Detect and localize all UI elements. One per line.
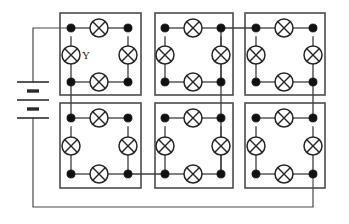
lamp-label-y: Y bbox=[82, 49, 90, 61]
lamp-icon[interactable] bbox=[304, 46, 322, 64]
junction-dot bbox=[161, 78, 169, 86]
lamp-icon[interactable] bbox=[184, 109, 202, 127]
lamp-icon[interactable] bbox=[275, 109, 293, 127]
junction-dot bbox=[252, 114, 260, 122]
lamp-icon[interactable] bbox=[156, 137, 174, 155]
lamp-icon[interactable] bbox=[90, 109, 108, 127]
lamp-icon[interactable] bbox=[184, 73, 202, 91]
lamp-icon[interactable] bbox=[275, 165, 293, 183]
junction-dot bbox=[67, 114, 75, 122]
box-group bbox=[60, 13, 325, 188]
junction-dot bbox=[309, 114, 317, 122]
wire-battery-negative-return bbox=[33, 118, 313, 207]
lamp-icon[interactable] bbox=[275, 19, 293, 37]
junction-dot bbox=[124, 170, 132, 178]
junction-dot bbox=[309, 24, 317, 32]
junction-dot bbox=[67, 24, 75, 32]
lamp-icon[interactable] bbox=[90, 19, 108, 37]
lamp-cell-bottom-right bbox=[247, 109, 322, 183]
lamp-icon[interactable] bbox=[275, 73, 293, 91]
lamp-icon[interactable] bbox=[184, 165, 202, 183]
lamp-icon[interactable] bbox=[119, 137, 137, 155]
lamp-cell-top-left: Y bbox=[62, 19, 137, 91]
lamp-icon[interactable] bbox=[247, 137, 265, 155]
lamp-icon[interactable] bbox=[212, 46, 230, 64]
junction-dot bbox=[217, 170, 225, 178]
junction-dot bbox=[217, 24, 225, 32]
junction-dot bbox=[161, 114, 169, 122]
lamp-cell-top-right bbox=[247, 19, 322, 91]
junction-dot bbox=[124, 114, 132, 122]
junction-dot bbox=[161, 24, 169, 32]
lamp-icon[interactable] bbox=[156, 46, 174, 64]
junction-dot bbox=[252, 78, 260, 86]
junction-dot bbox=[124, 78, 132, 86]
junction-dot bbox=[67, 170, 75, 178]
lamp-icon-y[interactable] bbox=[62, 46, 80, 64]
lamp-cell-bottom-middle bbox=[156, 109, 230, 183]
lamp-icon[interactable] bbox=[62, 137, 80, 155]
lamp-icon[interactable] bbox=[184, 19, 202, 37]
lamp-icon[interactable] bbox=[212, 137, 230, 155]
junction-dot bbox=[309, 170, 317, 178]
circuit-diagram-canvas: Y bbox=[0, 0, 349, 224]
junction-dot bbox=[252, 24, 260, 32]
junction-dot bbox=[217, 78, 225, 86]
lamp-icon[interactable] bbox=[247, 46, 265, 64]
junction-dot bbox=[161, 170, 169, 178]
junction-dot bbox=[309, 78, 317, 86]
lamp-icon[interactable] bbox=[90, 165, 108, 183]
junction-dot bbox=[124, 24, 132, 32]
lamp-cell-top-middle bbox=[156, 19, 230, 91]
circuit-schematic: Y bbox=[0, 0, 349, 224]
junction-dot bbox=[67, 78, 75, 86]
junction-dot bbox=[252, 170, 260, 178]
junction-dot bbox=[217, 114, 225, 122]
battery-symbol[interactable] bbox=[17, 82, 49, 118]
lamp-icon[interactable] bbox=[90, 73, 108, 91]
lamp-cell-bottom-left bbox=[62, 109, 137, 183]
lamp-icon[interactable] bbox=[304, 137, 322, 155]
lamp-icon[interactable] bbox=[119, 46, 137, 64]
